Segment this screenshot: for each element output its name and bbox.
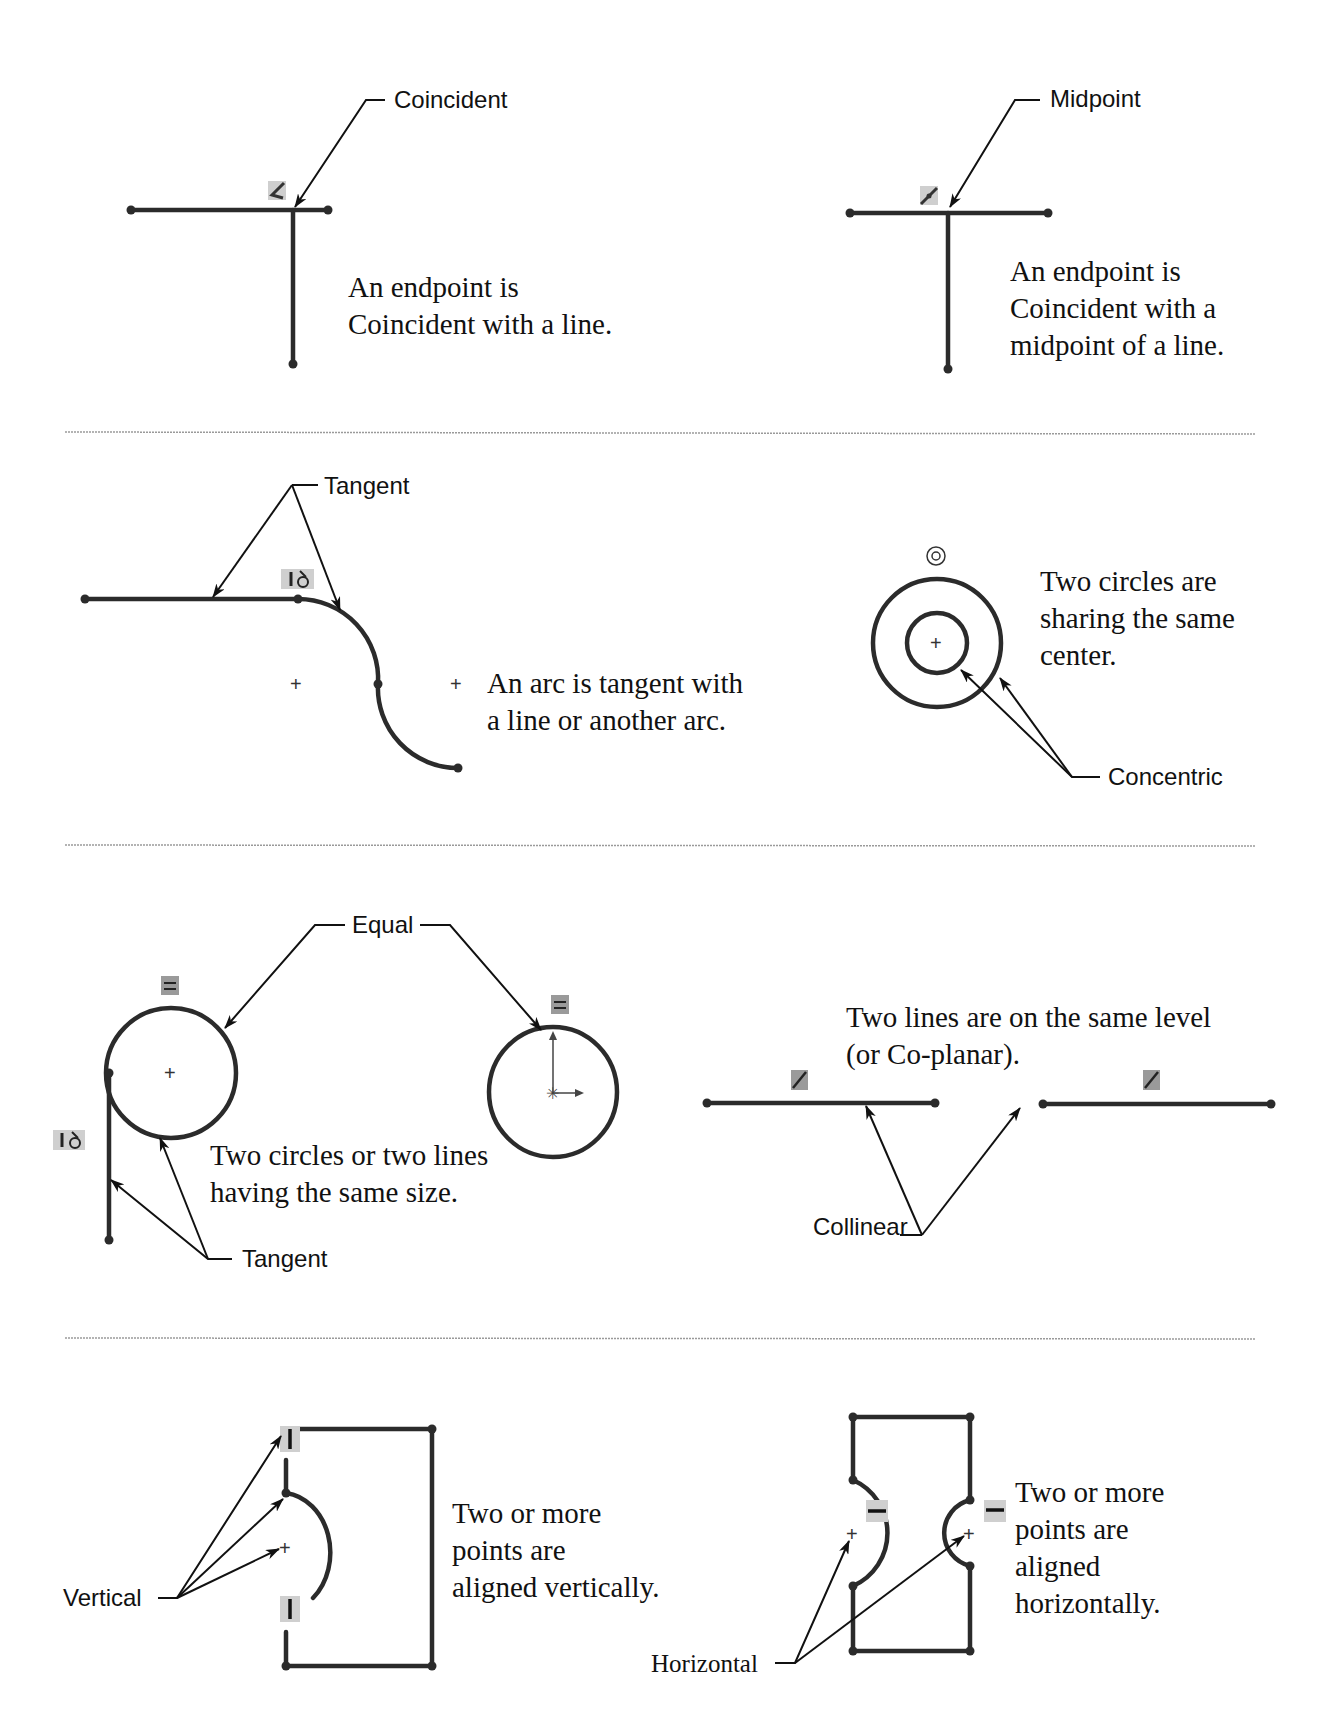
concentric-callout: Concentric bbox=[1108, 763, 1223, 790]
arc-center-mark: + bbox=[290, 673, 302, 695]
arc-center-mark: + bbox=[963, 1523, 975, 1545]
vertical-description-line2: points are bbox=[452, 1534, 566, 1566]
concentric-description-line3: center. bbox=[1040, 639, 1116, 671]
midpoint-description-line2: Coincident with a bbox=[1010, 292, 1216, 324]
equal-leader-left bbox=[225, 925, 345, 1028]
horizontal-leader-right bbox=[795, 1536, 964, 1663]
equal-description-line1: Two circles or two lines bbox=[210, 1139, 488, 1171]
vertical-relation-icon bbox=[280, 1596, 300, 1622]
vertical-description-line1: Two or more bbox=[452, 1497, 601, 1529]
horizontal-description-line4: horizontally. bbox=[1015, 1587, 1161, 1619]
coincident-leader bbox=[295, 100, 385, 207]
tangent-leader-circle bbox=[160, 1138, 208, 1259]
collinear-relation-icon bbox=[791, 1070, 808, 1090]
midpoint-description-line3: midpoint of a line. bbox=[1010, 329, 1224, 361]
midpoint-leader bbox=[950, 100, 1040, 207]
section-divider bbox=[65, 845, 1256, 846]
tangent-arc-1 bbox=[298, 599, 378, 684]
tangent-callout: Tangent bbox=[324, 472, 410, 499]
collinear-description-line2: (or Co-planar). bbox=[846, 1038, 1020, 1071]
concentric-description-line1: Two circles are bbox=[1040, 565, 1217, 597]
concentric-relation-icon bbox=[927, 547, 945, 565]
origin-axes-icon: ✳ bbox=[546, 1031, 584, 1102]
vertical-relation-icon bbox=[280, 1426, 300, 1452]
equal-callout: Equal bbox=[352, 911, 413, 938]
midpoint-relation-icon bbox=[920, 186, 938, 205]
relations-diagram: Coincident An endpoint is Coincident wit… bbox=[0, 0, 1329, 1716]
center-mark: + bbox=[164, 1062, 176, 1084]
panel-tangent: + + Tangent An arc is tangent with a lin… bbox=[81, 472, 744, 773]
equal-description-line2: having the same size. bbox=[210, 1176, 458, 1208]
tangent-description-line1: An arc is tangent with bbox=[487, 667, 744, 699]
horizontal-leader-left bbox=[775, 1541, 849, 1663]
midpoint-callout: Midpoint bbox=[1050, 85, 1141, 112]
coincident-description-line2: Coincident with a line. bbox=[348, 308, 612, 340]
horizontal-description-line2: points are bbox=[1015, 1513, 1129, 1545]
horizontal-description-line1: Two or more bbox=[1015, 1476, 1164, 1508]
tangent-leader-arc bbox=[292, 485, 340, 610]
tangent-description-line2: a line or another arc. bbox=[487, 704, 726, 736]
svg-text:✳: ✳ bbox=[546, 1085, 559, 1102]
equal-relation-icon bbox=[551, 995, 569, 1014]
vertical-description-line3: aligned vertically. bbox=[452, 1571, 659, 1603]
concentric-leader-outer bbox=[1000, 678, 1072, 777]
coincident-callout: Coincident bbox=[394, 86, 508, 113]
collinear-description-line1: Two lines are on the same level bbox=[846, 1001, 1211, 1033]
panel-coincident: Coincident An endpoint is Coincident wit… bbox=[127, 86, 613, 369]
horizontal-relation-icon bbox=[984, 1500, 1006, 1522]
tangent-relation-icon bbox=[281, 569, 314, 589]
section-divider bbox=[65, 432, 1256, 434]
panel-vertical: + Vertical Two or more points are aligne… bbox=[63, 1425, 659, 1671]
panel-equal: + ✳ Equal bbox=[53, 911, 617, 1272]
panel-concentric: + Concentric Two circles are sharing the… bbox=[873, 547, 1235, 790]
collinear-relation-icon bbox=[1143, 1070, 1160, 1090]
collinear-leader-right bbox=[922, 1108, 1020, 1235]
collinear-callout: Collinear bbox=[813, 1213, 908, 1240]
equal-tangent-callout: Tangent bbox=[242, 1245, 328, 1272]
equal-leader-right bbox=[420, 925, 541, 1030]
equal-relation-icon bbox=[161, 976, 179, 995]
arc-center-mark: + bbox=[279, 1537, 291, 1559]
tangent-relation-icon bbox=[53, 1130, 85, 1150]
vertical-callout: Vertical bbox=[63, 1584, 142, 1611]
arc-center-mark: + bbox=[450, 673, 462, 695]
coincident-relation-icon bbox=[268, 181, 286, 200]
panel-collinear: Collinear Two lines are on the same leve… bbox=[703, 1001, 1276, 1240]
concentric-description-line2: sharing the same bbox=[1040, 602, 1235, 634]
coincident-description-line1: An endpoint is bbox=[348, 271, 519, 303]
horizontal-description-line3: aligned bbox=[1015, 1550, 1101, 1582]
midpoint-description-line1: An endpoint is bbox=[1010, 255, 1181, 287]
tangent-leader-line bbox=[213, 485, 292, 597]
tangent-arc-2 bbox=[378, 684, 458, 768]
section-divider bbox=[65, 1338, 1256, 1339]
center-mark: + bbox=[930, 632, 942, 654]
horizontal-callout: Horizontal bbox=[651, 1650, 758, 1677]
horizontal-relation-icon bbox=[866, 1500, 888, 1522]
panel-horizontal: + + Horizontal Two or more points are al… bbox=[651, 1413, 1164, 1678]
panel-midpoint: Midpoint An endpoint is Coincident with … bbox=[846, 85, 1225, 374]
